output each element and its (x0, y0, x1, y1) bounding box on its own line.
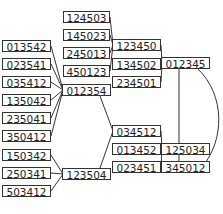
node-012345: 012345 (161, 57, 210, 69)
node-450123: 450123 (63, 65, 110, 77)
node-123504: 123504 (62, 168, 111, 180)
node-125034: 125034 (161, 143, 210, 155)
node-023541: 023541 (2, 58, 51, 70)
node-123450: 123450 (112, 39, 161, 51)
permutation-graph-diagram: 124503 145023 245013 450123 013542 02354… (0, 0, 223, 214)
node-134502: 134502 (112, 58, 161, 70)
node-235041: 235041 (2, 112, 51, 124)
node-250341: 250341 (2, 167, 51, 179)
node-013542: 013542 (2, 40, 51, 52)
node-234501: 234501 (112, 76, 161, 88)
node-013452: 013452 (112, 143, 161, 155)
node-023451: 023451 (112, 161, 161, 173)
node-135042: 135042 (2, 94, 51, 106)
node-345012: 345012 (161, 161, 210, 173)
node-035412: 035412 (2, 76, 51, 88)
edges-layer (0, 0, 223, 214)
node-124503: 124503 (63, 11, 110, 23)
node-034512: 034512 (112, 125, 161, 137)
node-350412: 350412 (2, 130, 51, 142)
node-012354: 012354 (62, 84, 111, 96)
node-245013: 245013 (63, 47, 110, 59)
node-503412: 503412 (2, 185, 51, 197)
node-150342: 150342 (2, 149, 51, 161)
node-145023: 145023 (63, 29, 110, 41)
